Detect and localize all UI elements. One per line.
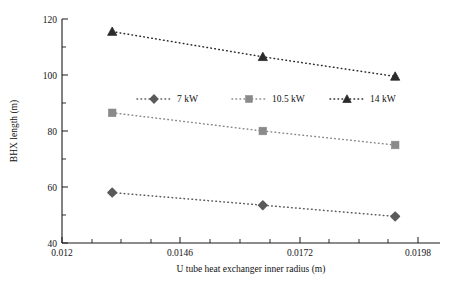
y-axis-ticks [62, 19, 68, 243]
data-point [391, 212, 399, 220]
legend-label: 7 kW [177, 94, 198, 104]
y-axis-title: BHX length (m) [9, 100, 20, 162]
y-tick-label-80: 80 [48, 127, 58, 137]
y-axis-tick-labels: 120 100 80 60 40 [43, 15, 58, 249]
legend-square-marker-icon [246, 96, 253, 103]
y-tick-label-100: 100 [43, 71, 58, 81]
chart-canvas: 120 100 80 60 40 0.012 0.0146 0.017 [0, 0, 455, 287]
y-tick-label-60: 60 [48, 183, 58, 193]
data-point [259, 201, 267, 209]
x-tick-label-4: 0.0198 [405, 248, 431, 258]
x-tick-label-2: 0.0146 [167, 248, 193, 258]
series-7-kw [108, 188, 399, 220]
legend-item-7-kw[interactable]: 7 kW [137, 94, 198, 104]
x-axis-ticks [62, 237, 418, 243]
data-point [391, 141, 399, 149]
data-point [108, 27, 117, 35]
data-point [259, 127, 267, 135]
series-10-5-kw [108, 109, 399, 149]
y-tick-label-120: 120 [43, 15, 58, 25]
axis-frame [62, 19, 440, 243]
y-tick-label-40: 40 [48, 239, 58, 249]
data-point [108, 188, 116, 196]
legend-label: 10.5 kW [272, 94, 305, 104]
chart-legend: 7 kW10.5 kW14 kW [137, 94, 396, 104]
legend-diamond-marker-icon [150, 95, 158, 103]
series-14-kw [108, 27, 400, 80]
x-axis-title: U tube heat exchanger inner radius (m) [177, 264, 326, 275]
legend-item-14-kw[interactable]: 14 kW [330, 94, 396, 104]
data-point [108, 109, 116, 117]
x-tick-label-1: 0.012 [51, 248, 73, 258]
legend-item-10-5-kw[interactable]: 10.5 kW [232, 94, 305, 104]
chart-page: 120 100 80 60 40 0.012 0.0146 0.017 [0, 0, 455, 287]
series-line [112, 32, 395, 77]
legend-label: 14 kW [370, 94, 396, 104]
series-line [112, 113, 395, 145]
x-axis-tick-labels: 0.012 0.0146 0.0172 0.0198 [51, 248, 431, 258]
series-line [112, 193, 395, 217]
data-point [258, 52, 267, 60]
x-tick-label-3: 0.0172 [287, 248, 313, 258]
series-layer [108, 27, 400, 221]
